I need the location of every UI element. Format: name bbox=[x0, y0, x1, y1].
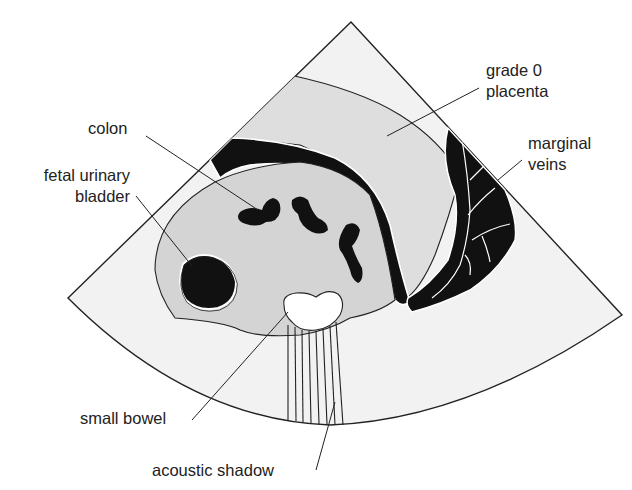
label-bladder-line2: bladder bbox=[22, 186, 130, 207]
leader-marginal-veins bbox=[498, 160, 522, 180]
label-veins-line2: veins bbox=[528, 154, 591, 175]
label-colon-line1: colon bbox=[88, 118, 127, 139]
label-colon: colon bbox=[88, 118, 127, 139]
label-bladder-line1: fetal urinary bbox=[22, 165, 130, 186]
label-small-bowel-line1: small bowel bbox=[80, 408, 166, 429]
label-placenta-line1: grade 0 bbox=[486, 60, 548, 81]
label-placenta-line2: placenta bbox=[486, 81, 548, 102]
label-grade-0-placenta: grade 0 placenta bbox=[486, 60, 548, 102]
label-small-bowel: small bowel bbox=[80, 408, 166, 429]
label-marginal-veins: marginal veins bbox=[528, 133, 591, 175]
label-fetal-urinary-bladder: fetal urinary bladder bbox=[22, 165, 130, 207]
label-veins-line1: marginal bbox=[528, 133, 591, 154]
label-acoustic-shadow-line1: acoustic shadow bbox=[152, 460, 274, 481]
label-acoustic-shadow: acoustic shadow bbox=[152, 460, 274, 481]
